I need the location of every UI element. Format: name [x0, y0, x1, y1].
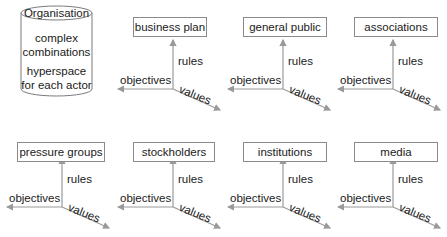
rules-label: rules [398, 55, 423, 67]
actor-box: associations [354, 17, 438, 37]
actor-box: institutions [243, 142, 327, 162]
rules-label: rules [67, 173, 92, 185]
organisation-line-complex: complex [20, 32, 93, 45]
actor-box: media [354, 142, 438, 162]
actor-cell-pressure-groups: pressure groups rules objectives values [5, 118, 116, 236]
actor-cell-stockholders: stockholders rules objectives values [116, 118, 227, 236]
organisation-title: Organisation [20, 7, 93, 20]
organisation-line-for-each-actor: for each actor [20, 79, 93, 92]
actor-cell-general-public: general public rules objectives values [226, 0, 337, 118]
actor-box: business plan [133, 17, 207, 37]
organisation-line-hyperspace: hyperspace [20, 65, 93, 78]
rules-label: rules [288, 55, 313, 67]
actor-box: stockholders [133, 142, 215, 162]
objectives-label: objectives [230, 74, 281, 86]
objectives-label: objectives [340, 74, 391, 86]
objectives-label: objectives [120, 192, 171, 204]
rules-label: rules [178, 55, 203, 67]
actor-cell-business-plan: business plan rules objectives values [116, 0, 227, 118]
organisation-line-combinations: combinations [20, 46, 93, 59]
rules-label: rules [398, 173, 423, 185]
diagram-canvas: Organisation complex combinations hypers… [0, 0, 447, 237]
actor-cell-media: media rules objectives values [336, 118, 447, 236]
actor-box: pressure groups [17, 142, 105, 162]
objectives-label: objectives [120, 74, 171, 86]
actor-cell-associations: associations rules objectives values [336, 0, 447, 118]
rules-label: rules [288, 173, 313, 185]
actor-box: general public [243, 17, 327, 37]
actor-cell-institutions: institutions rules objectives values [226, 118, 337, 236]
objectives-label: objectives [340, 192, 391, 204]
objectives-label: objectives [230, 192, 281, 204]
objectives-label: objectives [9, 192, 60, 204]
rules-label: rules [178, 173, 203, 185]
